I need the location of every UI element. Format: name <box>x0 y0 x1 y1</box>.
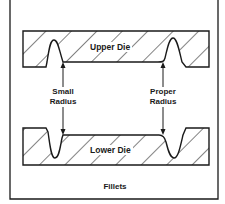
lower-die-label: Lower Die <box>88 145 133 155</box>
small-radius-line1: Small <box>43 87 83 97</box>
small-radius-line2: Radius <box>43 97 83 107</box>
proper-radius-label: Proper Radius <box>143 87 183 107</box>
small-radius-label: Small Radius <box>43 87 83 107</box>
outer-frame <box>10 0 218 199</box>
proper-radius-line2: Radius <box>143 97 183 107</box>
arrowhead-up-icon <box>161 62 166 68</box>
arrowhead-down-icon <box>61 129 66 135</box>
fillets-diagram <box>0 0 225 204</box>
arrowhead-down-icon <box>161 129 166 135</box>
upper-die-label: Upper Die <box>88 42 132 52</box>
proper-radius-line1: Proper <box>143 87 183 97</box>
figure-caption: Fillets <box>95 182 135 192</box>
arrowhead-up-icon <box>61 62 66 68</box>
